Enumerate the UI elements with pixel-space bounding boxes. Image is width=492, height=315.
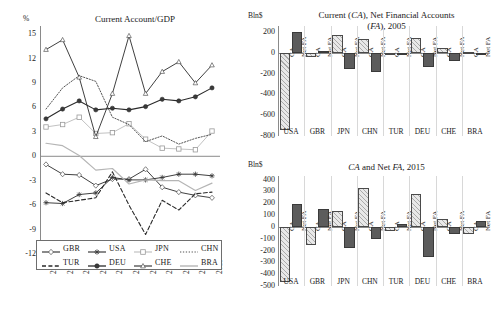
bar-group-separator — [436, 176, 437, 286]
line-chart-ytick: -12 — [4, 249, 36, 258]
legend-item-deu[interactable]: DEU — [87, 257, 136, 267]
bar-chart-category-label: JPN — [331, 277, 357, 286]
line-chart-legend: GBRUSAJPNCHNTURDEUCHEBRA — [36, 240, 222, 270]
bar-chart-2005-plot-area: CANet FACANet FACANet FACANet FACANet FA… — [278, 26, 488, 136]
legend-label: JPN — [153, 244, 169, 253]
title-text: Current ( — [318, 10, 351, 20]
legend-item-chn[interactable]: CHN — [179, 243, 228, 253]
legend-item-gbr[interactable]: GBR — [41, 243, 90, 253]
bar-chart-ytick: 300 — [244, 186, 275, 195]
legend-item-usa[interactable]: USA — [87, 243, 136, 253]
bar-chart-category-label: TUR — [383, 277, 409, 286]
title-text: , 2015 — [402, 162, 425, 172]
line-chart-ytick: 9 — [4, 78, 36, 87]
bar-chart-ytick: -800 — [244, 131, 275, 140]
bar-chart-category-label: GBR — [304, 127, 330, 136]
legend-marker-tur-icon — [41, 257, 61, 267]
line-chart-ytick: -6 — [4, 200, 36, 209]
line-chart-plot-area — [40, 26, 220, 254]
bar-chart-category-label: CHN — [357, 127, 383, 136]
bar-chart-category-label: JPN — [331, 127, 357, 136]
bar-chart-2005-panel: Bln$ Current (CA), Net Financial Account… — [244, 0, 492, 156]
legend-label: CHE — [153, 258, 172, 267]
bar-chart-ytick: -400 — [244, 89, 275, 98]
title-abbrev-ca: CA — [348, 162, 360, 172]
legend-item-jpn[interactable]: JPN — [133, 243, 182, 253]
bar-chart-ytick: 200 — [244, 27, 275, 36]
legend-label: TUR — [61, 258, 80, 267]
bar-chart-ytick: -200 — [244, 246, 275, 255]
bar-net-fa-deu — [423, 227, 434, 258]
bar-chart-category-label: TUR — [383, 127, 409, 136]
bar-chart-2015-title: CA and Net FA, 2015 — [289, 162, 484, 173]
bar-ca-usa — [280, 53, 291, 130]
bar-label-net-fa: Net FA — [484, 37, 492, 57]
bar-group-separator — [304, 26, 305, 136]
bar-group-separator — [331, 176, 332, 286]
line-series-bra — [46, 143, 212, 190]
legend-marker-deu-icon — [87, 257, 107, 267]
legend-items: GBRUSAJPNCHNTURDEUCHEBRA — [37, 241, 221, 269]
bar-chart-category-label: USA — [278, 127, 304, 136]
bar-chart-ytick: 200 — [244, 198, 275, 207]
line-chart-svg — [40, 26, 220, 254]
bar-chart-category-label: CHN — [357, 277, 383, 286]
bar-chart-category-label: DEU — [409, 277, 435, 286]
bar-chart-ytick: 0 — [244, 48, 275, 57]
legend-label: BRA — [199, 258, 218, 267]
line-chart-ytick: -3 — [4, 176, 36, 185]
line-chart-ylabel: % — [23, 14, 29, 23]
line-chart-ytick: 12 — [4, 54, 36, 63]
line-chart-panel: % Current Account/GDP 15129630-3-6-9-12 … — [0, 0, 240, 315]
legend-label: DEU — [107, 258, 126, 267]
bar-chart-category-label: BRA — [462, 127, 488, 136]
bar-chart-category-label: GBR — [304, 277, 330, 286]
title-abbrev-fa: FA — [392, 162, 402, 172]
bar-chart-category-label: USA — [278, 277, 304, 286]
legend-marker-bra-icon — [179, 257, 199, 267]
figure-canvas: % Current Account/GDP 15129630-3-6-9-12 … — [0, 0, 492, 315]
legend-item-che[interactable]: CHE — [133, 257, 182, 267]
bar-chart-2005-title-line1: Current (CA), Net Financial Accounts — [284, 10, 489, 21]
line-chart-ytick: 6 — [4, 102, 36, 111]
bar-ca-usa — [280, 227, 291, 282]
bar-group-separator — [436, 26, 437, 136]
line-chart-ytick: 0 — [4, 151, 36, 160]
bar-chart-ytick: 100 — [244, 210, 275, 219]
legend-label: CHN — [199, 244, 219, 253]
bar-chart-2015-panel: Bln$ CA and Net FA, 2015 CANet FACANet F… — [244, 156, 492, 315]
legend-label: USA — [107, 244, 126, 253]
line-chart-title: Current Account/GDP — [55, 14, 215, 25]
legend-label: GBR — [61, 244, 80, 253]
bar-chart-category-label: BRA — [462, 277, 488, 286]
legend-item-tur[interactable]: TUR — [41, 257, 90, 267]
line-chart-ytick: 3 — [4, 127, 36, 136]
bar-group-separator — [462, 26, 463, 136]
bar-chart-ytick: -200 — [244, 69, 275, 78]
legend-marker-chn-icon — [179, 243, 199, 253]
bar-chart-category-label: DEU — [409, 127, 435, 136]
bar-chart-ytick: -300 — [244, 257, 275, 266]
bar-chart-2015-plot-area: CANet FACANet FACANet FACANet FACANet FA… — [278, 176, 488, 286]
bar-chart-ytick: -500 — [244, 281, 275, 290]
bar-label-net-fa: Net FA — [484, 211, 492, 231]
bar-chart-category-label: CHE — [436, 127, 462, 136]
legend-item-bra[interactable]: BRA — [179, 257, 228, 267]
legend-marker-gbr-icon — [41, 243, 61, 253]
bar-chart-ytick: -100 — [244, 234, 275, 243]
bar-group-separator — [383, 176, 384, 286]
legend-marker-che-icon — [133, 257, 153, 267]
bar-chart-ytick: -600 — [244, 110, 275, 119]
bar-chart-category-label: CHE — [436, 277, 462, 286]
legend-marker-usa-icon — [87, 243, 107, 253]
title-abbrev-ca: CA — [351, 10, 363, 20]
bar-chart-2005-ylabel: Bln$ — [248, 11, 263, 20]
title-text: and Net — [360, 162, 393, 172]
title-text: ), Net Financial Accounts — [363, 10, 455, 20]
bar-chart-2015-ylabel: Bln$ — [248, 160, 263, 169]
bar-chart-ytick: -400 — [244, 269, 275, 278]
line-series-deu — [46, 88, 212, 119]
line-chart-ytick: 15 — [4, 29, 36, 38]
bar-group-separator — [409, 176, 410, 286]
line-chart-ytick: -9 — [4, 225, 36, 234]
